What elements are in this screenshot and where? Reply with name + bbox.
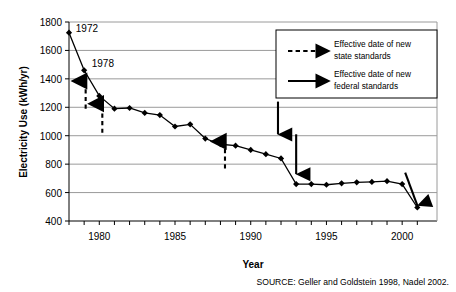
chart-canvas: 40060080010001200140016001800 1980198519… — [0, 0, 456, 292]
x-tick-label: 1980 — [88, 231, 111, 242]
legend-label-federal-standards-line1: Effective date of new — [334, 69, 412, 79]
y-axis-title: Electricity Use (kWh/yr) — [18, 66, 29, 178]
y-tick-label: 1000 — [40, 131, 63, 142]
legend-label-federal-standards-line2: federal standards — [334, 81, 398, 91]
y-tick-label: 400 — [45, 216, 62, 227]
y-tick-label: 800 — [45, 159, 62, 170]
x-tick-label: 1990 — [240, 231, 263, 242]
chart-figure: 40060080010001200140016001800 1980198519… — [0, 0, 456, 292]
point-annotation: 1978 — [92, 58, 115, 69]
legend-label-state-standards-line1: Effective date of new — [334, 39, 412, 49]
x-axis-title: Year — [242, 259, 263, 270]
y-tick-label: 1800 — [40, 17, 63, 28]
y-tick-label: 1200 — [40, 102, 63, 113]
y-tick-label: 1400 — [40, 74, 63, 85]
source-note: SOURCE: Geller and Goldstein 1998, Nadel… — [256, 277, 449, 287]
x-tick-label: 1985 — [164, 231, 187, 242]
legend-label-state-standards-line2: state standards — [334, 51, 391, 61]
point-annotation: 1972 — [76, 23, 99, 34]
legend: Effective date of new state standards Ef… — [276, 30, 437, 98]
y-tick-label: 600 — [45, 188, 62, 199]
y-tick-label: 1600 — [40, 45, 63, 56]
x-tick-label: 2000 — [391, 231, 414, 242]
x-tick-label: 1995 — [315, 231, 338, 242]
